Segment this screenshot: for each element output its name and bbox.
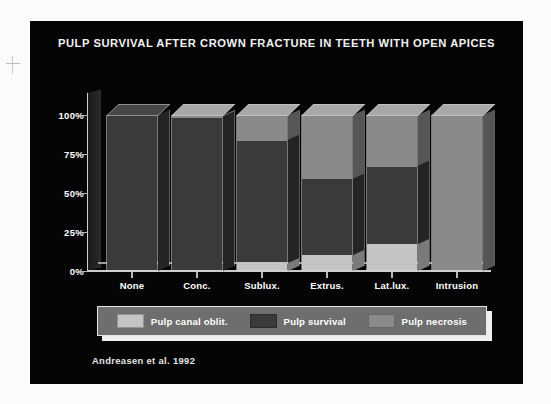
legend-swatch-icon	[250, 314, 277, 328]
bar-segment-side	[418, 240, 429, 271]
bar-segment-side	[223, 112, 234, 271]
bar-segment-pulp-canal-oblit-	[302, 255, 352, 270]
bar-side-face	[353, 110, 365, 271]
x-axis-label-latlux: Lat.lux.	[358, 280, 426, 291]
bar-extrus[interactable]: Extrus.	[301, 115, 353, 271]
bar-side-face	[158, 110, 170, 271]
x-axis-tick-mark	[456, 272, 458, 278]
y-axis-label-50: 50%	[30, 188, 84, 199]
bar-sublux[interactable]: Sublux.	[236, 115, 288, 271]
bar-front-face	[171, 115, 223, 271]
bar-side-face	[483, 110, 495, 271]
legend-item-pulp-survival[interactable]: Pulp survival	[250, 314, 346, 328]
legend-swatch-icon	[368, 314, 395, 328]
bar-segment-side	[483, 110, 494, 271]
bar-none[interactable]: None	[106, 115, 158, 271]
bar-segment-side	[418, 162, 429, 245]
x-axis-label-none: None	[98, 280, 166, 291]
y-axis-label-0: 0%	[30, 266, 84, 277]
bar-segment-pulp-necrosis	[432, 116, 482, 270]
y-axis-tick-mark	[79, 271, 88, 272]
y-axis-label-75: 75%	[30, 149, 84, 160]
bar-latlux[interactable]: Lat.lux.	[366, 115, 418, 271]
bar-segment-side	[353, 174, 364, 255]
legend-label: Pulp canal oblit.	[151, 316, 228, 327]
bar-front-face	[366, 115, 418, 271]
y-axis-tick-mark	[79, 232, 88, 233]
bar-side-face	[288, 110, 300, 271]
y-axis-tick-mark	[79, 193, 88, 194]
x-axis-label-sublux: Sublux.	[228, 280, 296, 291]
bar-segment-pulp-necrosis	[302, 116, 352, 179]
bar-segment-side	[418, 110, 429, 166]
bar-segment-side	[353, 110, 364, 179]
x-axis-label-intrusion: Intrusion	[423, 280, 491, 291]
legend-label: Pulp necrosis	[402, 316, 468, 327]
bar-segment-pulp-canal-oblit-	[237, 262, 287, 270]
bar-front-face	[301, 115, 353, 271]
y-axis-tick-mark	[79, 154, 88, 155]
legend-label: Pulp survival	[284, 316, 346, 327]
bar-segment-pulp-survival	[172, 118, 222, 270]
x-axis-label-conc: Conc.	[163, 280, 231, 291]
bar-segment-pulp-canal-oblit-	[367, 244, 417, 270]
bar-segment-side	[353, 251, 364, 271]
x-axis-label-extrus: Extrus.	[293, 280, 361, 291]
x-axis-tick-mark	[261, 272, 263, 278]
bar-segment-pulp-necrosis	[237, 116, 287, 141]
y-axis-label-100: 100%	[30, 110, 84, 121]
slide-canvas: PULP SURVIVAL AFTER CROWN FRACTURE IN TE…	[30, 21, 523, 384]
legend-item-pulp-necrosis[interactable]: Pulp necrosis	[368, 314, 468, 328]
bar-segment-side	[288, 135, 299, 263]
bar-side-face	[223, 110, 235, 271]
bar-segment-pulp-survival	[107, 116, 157, 270]
x-axis-tick-mark	[326, 272, 328, 278]
bar-conc[interactable]: Conc.	[171, 115, 223, 271]
chart-legend: Pulp canal oblit.Pulp survivalPulp necro…	[97, 306, 487, 336]
legend-swatch-icon	[117, 314, 144, 328]
bar-segment-pulp-survival	[367, 167, 417, 244]
y-axis-label-25: 25%	[30, 227, 84, 238]
citation-text: Andreasen et al. 1992	[92, 355, 195, 366]
bar-segment-pulp-survival	[237, 141, 287, 263]
bar-segment-pulp-necrosis	[367, 116, 417, 167]
legend-item-pulp-canal-oblit[interactable]: Pulp canal oblit.	[117, 314, 228, 328]
bar-segment-pulp-survival	[302, 179, 352, 254]
plot-area: 0%25%50%75%100% NoneConc.Sublux.Extrus.L…	[88, 93, 488, 293]
bar-front-face	[106, 115, 158, 271]
photo-artifact	[6, 56, 20, 74]
y-axis-wall	[87, 90, 101, 271]
bar-front-face	[431, 115, 483, 271]
bar-intrusion[interactable]: Intrusion	[431, 115, 483, 271]
chart-title: PULP SURVIVAL AFTER CROWN FRACTURE IN TE…	[30, 37, 523, 49]
x-axis-tick-mark	[131, 272, 133, 278]
bar-side-face	[418, 110, 430, 271]
y-axis-tick-mark	[79, 115, 88, 116]
x-axis-tick-mark	[391, 272, 393, 278]
x-axis-tick-mark	[196, 272, 198, 278]
bar-segment-side	[158, 110, 169, 271]
bar-front-face	[236, 115, 288, 271]
